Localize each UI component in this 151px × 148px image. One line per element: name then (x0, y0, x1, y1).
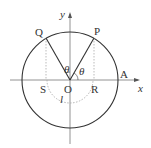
theta-right-label: θ (79, 65, 85, 77)
point-A-label: A (120, 68, 128, 80)
point-Q-label: Q (35, 26, 43, 38)
point-P-label: P (94, 25, 100, 37)
x-axis-label: x (137, 82, 143, 94)
unit-circle-diagram: y x P Q A O R S θ θ l (0, 0, 151, 148)
theta-left-label: θ (64, 63, 70, 75)
angle-arc-right (74, 73, 78, 80)
point-S-label: S (40, 83, 46, 95)
point-R-label: R (91, 83, 99, 95)
y-axis-arrow-icon (68, 12, 72, 18)
y-axis-label: y (59, 8, 65, 20)
origin-label: O (64, 83, 72, 95)
arc-l-label: l (60, 93, 63, 105)
